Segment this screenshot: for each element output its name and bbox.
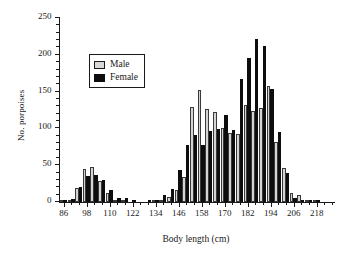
y-axis-tick-major: 50: [55, 164, 61, 165]
x-axis-label: Body length (cm): [60, 234, 332, 244]
bar-female-202: [286, 173, 290, 202]
y-axis-tick-minor: [56, 46, 61, 47]
bar-female-134: [155, 200, 159, 202]
y-axis-tick-minor: [56, 105, 61, 106]
x-axis-tick-minor: [171, 202, 172, 205]
x-axis-tick-major: [317, 202, 318, 207]
x-axis-tick-minor: [79, 202, 80, 205]
bar-female-166: [217, 129, 221, 202]
y-axis-tick-minor: [56, 61, 61, 62]
bar-female-178: [240, 79, 244, 202]
legend-swatch-male-icon: [94, 61, 105, 69]
x-axis-tick-minor: [324, 202, 325, 205]
x-axis-tick-minor: [125, 202, 126, 205]
bar-female-206: [293, 198, 297, 202]
x-axis-tick-minor: [194, 202, 195, 205]
x-axis-tick-minor: [309, 202, 310, 205]
bar-female-146: [178, 170, 182, 202]
x-axis-tick-label: 182: [241, 208, 255, 219]
bar-female-114: [117, 198, 121, 202]
y-axis-tick-major: 250: [55, 17, 61, 18]
y-axis-label: No. porpoises: [14, 60, 28, 170]
x-axis-tick-label: 158: [195, 208, 209, 219]
y-axis-tick-minor: [56, 157, 61, 158]
bar-female-214: [309, 200, 313, 202]
x-axis-tick-major: [248, 202, 249, 207]
x-axis-tick-major: [133, 202, 134, 207]
bar-female-94: [79, 187, 83, 202]
y-axis-tick-label: 100: [38, 121, 52, 132]
y-axis-tick-label: 200: [38, 48, 52, 59]
bar-female-218: [316, 200, 320, 202]
y-axis-tick-minor: [56, 83, 61, 84]
x-axis-tick-label: 218: [310, 208, 324, 219]
x-axis-tick-minor: [148, 202, 149, 205]
x-axis-tick-minor: [217, 202, 218, 205]
y-axis-tick-label: 50: [43, 158, 52, 169]
x-axis-tick-minor: [94, 202, 95, 205]
bar-female-182: [247, 58, 251, 202]
x-axis-tick-major: [64, 202, 65, 207]
x-axis-tick-label: 206: [287, 208, 301, 219]
bar-female-162: [209, 131, 213, 202]
y-axis-tick-minor: [56, 172, 61, 173]
y-axis-tick-minor: [56, 142, 61, 143]
y-axis-tick-minor: [56, 24, 61, 25]
x-axis-tick-major: [87, 202, 88, 207]
legend-swatch-female-icon: [94, 74, 105, 82]
bar-female-90: [71, 199, 75, 202]
x-axis-tick-label: 110: [103, 208, 116, 219]
x-axis-tick-minor: [263, 202, 264, 205]
bar-female-122: [132, 200, 136, 202]
x-axis-tick-minor: [255, 202, 256, 205]
x-axis-tick-minor: [209, 202, 210, 205]
x-axis-tick-label: 194: [264, 208, 278, 219]
x-axis-tick-major: [202, 202, 203, 207]
x-axis-tick-major: [156, 202, 157, 207]
bar-female-158: [201, 145, 205, 202]
legend-label-female: Female: [110, 72, 138, 83]
y-axis-tick-major: 150: [55, 91, 61, 92]
x-axis-tick-label: 98: [82, 208, 91, 219]
y-axis-tick-minor: [56, 32, 61, 33]
y-axis-tick-minor: [56, 39, 61, 40]
y-axis-tick-minor: [56, 179, 61, 180]
bar-female-86: [63, 200, 67, 202]
x-axis-tick-major: [110, 202, 111, 207]
y-axis-tick-major: 100: [55, 127, 61, 128]
bar-female-98: [86, 176, 90, 202]
x-axis-tick-minor: [186, 202, 187, 205]
x-axis-tick-minor: [286, 202, 287, 205]
y-axis-tick-minor: [56, 120, 61, 121]
x-axis-tick-minor: [301, 202, 302, 205]
x-axis-tick-minor: [332, 202, 333, 205]
x-axis-tick-minor: [232, 202, 233, 205]
y-axis-tick-label: 250: [38, 11, 52, 22]
y-axis-tick-label: 150: [38, 85, 52, 96]
legend-item-female: Female: [94, 71, 138, 84]
bar-female-198: [278, 132, 282, 202]
x-axis-tick-minor: [71, 202, 72, 205]
x-axis-tick-label: 146: [172, 208, 186, 219]
x-axis-tick-minor: [240, 202, 241, 205]
y-axis-tick-minor: [56, 98, 61, 99]
bar-female-142: [171, 189, 175, 202]
bar-female-118: [125, 198, 129, 202]
y-axis-tick-minor: [56, 113, 61, 114]
legend-item-male: Male: [94, 58, 138, 71]
plot-area: 0501001502002508698110122134146158170182…: [60, 18, 332, 202]
x-axis-tick-label: 86: [59, 208, 68, 219]
porpoise-body-length-histogram: No. porpoises 05010015020025086981101221…: [0, 0, 344, 256]
x-axis-tick-minor: [102, 202, 103, 205]
bar-female-210: [301, 200, 305, 202]
bar-female-102: [94, 175, 98, 202]
x-axis-tick-major: [294, 202, 295, 207]
y-axis-tick-label: 0: [47, 195, 52, 206]
y-axis-tick-minor: [56, 149, 61, 150]
x-axis-tick-major: [179, 202, 180, 207]
bar-female-106: [102, 180, 106, 202]
y-axis-tick-minor: [56, 186, 61, 187]
bar-female-150: [186, 145, 190, 202]
y-axis-tick-minor: [56, 194, 61, 195]
legend-label-male: Male: [110, 59, 130, 70]
